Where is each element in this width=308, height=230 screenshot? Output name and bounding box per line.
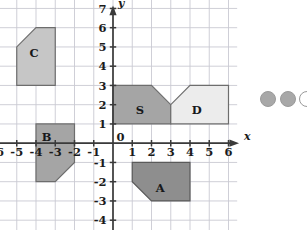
x-axis-tick-label: 2 [147,145,155,159]
plot-svg: -6-5-4-3-2-101234567654321-1-2-3-4-5xyCB… [0,0,307,230]
decor-dot [261,92,276,107]
shape-label-a: A [155,181,166,195]
decor-dot [281,92,296,107]
y-axis-tick-label: -2 [94,175,107,189]
y-axis-tick-label: -1 [94,156,107,170]
x-axis-tick-label: 6 [224,145,232,159]
shape-label-c: C [29,46,38,60]
decor-dots [261,92,308,107]
decor-dot [300,92,308,107]
x-axis-tick-label: -3 [49,145,62,159]
y-axis-tick-label: 1 [98,117,106,131]
shape-label-d: D [192,103,202,117]
x-axis-tick-label: -2 [68,145,81,159]
shape-label-b: B [42,130,52,144]
y-axis-tick-label: 6 [98,21,106,35]
shape-label-s: S [136,103,144,117]
x-axis-name: x [243,130,251,143]
x-axis-tick-label: 0 [116,130,124,144]
y-axis-tick-label: -4 [94,213,107,227]
y-axis-tick-label: 5 [98,40,106,54]
coordinate-grid-figure: -6-5-4-3-2-101234567654321-1-2-3-4-5xyCB… [0,0,307,230]
y-axis-tick-label: -3 [94,194,107,208]
x-axis-tick-label: 1 [128,145,136,159]
x-axis-tick-label: 4 [186,145,194,159]
y-axis-tick-label: 4 [98,59,106,73]
x-axis-tick-label: -6 [0,145,4,159]
y-axis-tick-label: 2 [98,98,106,112]
y-axis-arrow [109,6,116,16]
x-axis-tick-label: 5 [205,145,213,159]
y-axis-tick-label: 7 [98,2,106,16]
y-axis-tick-label: 3 [98,79,106,93]
x-axis-tick-label: 3 [167,145,175,159]
x-axis-tick-label: -5 [10,145,23,159]
x-axis-tick-label: -4 [30,145,43,159]
